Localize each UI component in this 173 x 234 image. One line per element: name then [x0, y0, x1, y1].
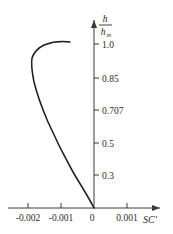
y-tick-label: 0.707 — [102, 106, 124, 116]
data-curve-sc-profile — [32, 42, 94, 208]
x-tick-label: 0 — [90, 213, 95, 223]
chart-container: -0.002 -0.001 0 0.001 SC' 1.0 0.85 0.707… — [0, 0, 173, 234]
y-axis-title-subscript: m — [107, 32, 112, 38]
x-tick-label: -0.002 — [16, 213, 41, 223]
x-axis-arrow-icon — [152, 205, 160, 211]
y-axis-title-numerator: h — [103, 14, 108, 24]
y-axis-title: h h m — [99, 14, 112, 38]
x-tick-label: -0.001 — [49, 213, 74, 223]
y-tick-label: 1.0 — [102, 40, 114, 50]
x-tick-label: 0.001 — [116, 213, 138, 223]
y-tick-label: 0.3 — [102, 171, 114, 181]
y-tick-label: 0.5 — [102, 139, 114, 149]
y-axis-title-denominator: h — [101, 27, 106, 37]
y-axis-arrow-icon — [91, 20, 97, 28]
y-tick-label: 0.85 — [102, 74, 119, 84]
chart-plot: -0.002 -0.001 0 0.001 SC' 1.0 0.85 0.707… — [0, 0, 173, 234]
x-axis-title: SC' — [143, 214, 158, 225]
